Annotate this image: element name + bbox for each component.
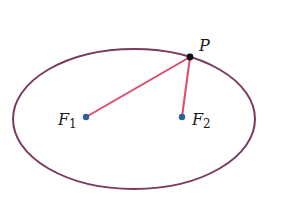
focus-f1-point — [83, 114, 89, 120]
ellipse-diagram: P F1 F2 — [0, 0, 285, 203]
segment-f1-p — [86, 57, 190, 117]
segment-f2-p — [182, 57, 190, 117]
label-f2: F2 — [191, 110, 211, 131]
label-p: P — [198, 36, 210, 55]
label-f1: F1 — [57, 110, 77, 131]
focus-f2-point — [179, 114, 185, 120]
point-p — [187, 54, 194, 61]
ellipse-curve — [13, 49, 255, 189]
